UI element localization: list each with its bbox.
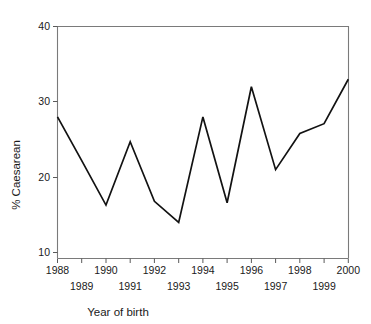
y-tick-label-30: 30 bbox=[38, 95, 50, 107]
x-tick-label-1988: 1988 bbox=[46, 264, 70, 276]
x-tick-marks bbox=[58, 259, 349, 264]
x-tick-label-1992: 1992 bbox=[143, 264, 167, 276]
y-tick-label-40: 40 bbox=[38, 20, 50, 32]
axis-frame bbox=[58, 26, 349, 259]
x-tick-label-1995: 1995 bbox=[215, 280, 239, 292]
x-tick-label-1997: 1997 bbox=[264, 280, 288, 292]
caesarean-line-chart: 40 30 20 10 1988 1990 1992 1994 bbox=[0, 0, 371, 324]
x-tick-label-1999: 1999 bbox=[312, 280, 336, 292]
chart-canvas: 40 30 20 10 1988 1990 1992 1994 bbox=[0, 0, 371, 324]
y-tick-label-20: 20 bbox=[38, 171, 50, 183]
x-tick-label-1994: 1994 bbox=[191, 264, 215, 276]
x-tick-labels-lower: 1989 1991 1993 1995 1997 1999 bbox=[70, 280, 336, 292]
x-tick-label-1998: 1998 bbox=[288, 264, 312, 276]
x-tick-label-1991: 1991 bbox=[119, 280, 143, 292]
x-tick-labels-upper: 1988 1990 1992 1994 1996 1998 2000 bbox=[46, 264, 360, 276]
y-axis-title: % Caesarean bbox=[10, 140, 22, 210]
x-tick-label-1990: 1990 bbox=[94, 264, 118, 276]
x-tick-label-1993: 1993 bbox=[167, 280, 191, 292]
series-line-percent-caesarean bbox=[58, 79, 349, 222]
y-tick-label-10: 10 bbox=[38, 246, 50, 258]
x-axis-title: Year of birth bbox=[87, 306, 149, 318]
x-tick-label-2000: 2000 bbox=[337, 264, 361, 276]
y-tick-labels: 40 30 20 10 bbox=[38, 20, 50, 258]
y-tick-marks bbox=[53, 27, 58, 253]
x-tick-label-1989: 1989 bbox=[70, 280, 94, 292]
x-tick-label-1996: 1996 bbox=[240, 264, 264, 276]
